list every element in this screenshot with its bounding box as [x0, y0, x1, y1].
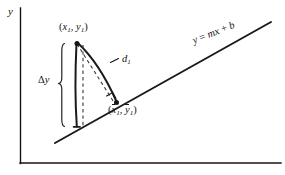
distance-subscript: 1: [127, 58, 131, 66]
observed-point-dot: [75, 41, 80, 46]
regression-deviation-figure: y (x1, y1) (x1, y1) d1 Δy y = mx + b: [0, 0, 285, 175]
observed-paren-close: ): [84, 21, 88, 32]
delta-y-variable: y: [45, 74, 50, 85]
vertical-deviation-segment: [75, 44, 76, 127]
figure-canvas: [0, 0, 285, 175]
delta-y-label: Δy: [38, 75, 49, 86]
regression-line-group: [55, 22, 271, 143]
y-axis-label: y: [8, 6, 13, 17]
distance-label: d1: [122, 54, 131, 66]
predicted-y-bar: y: [125, 105, 130, 116]
predicted-paren-close: ): [133, 104, 137, 115]
predicted-x-bar: x: [112, 105, 117, 116]
predicted-point-label: (x1, y1): [108, 105, 137, 117]
regression-line: [55, 22, 271, 143]
observed-point-label: (x1, y1): [59, 22, 88, 34]
delta-symbol: Δ: [38, 74, 45, 85]
d1-leader-tick: [111, 59, 119, 63]
delta-y-brace: [58, 44, 64, 127]
